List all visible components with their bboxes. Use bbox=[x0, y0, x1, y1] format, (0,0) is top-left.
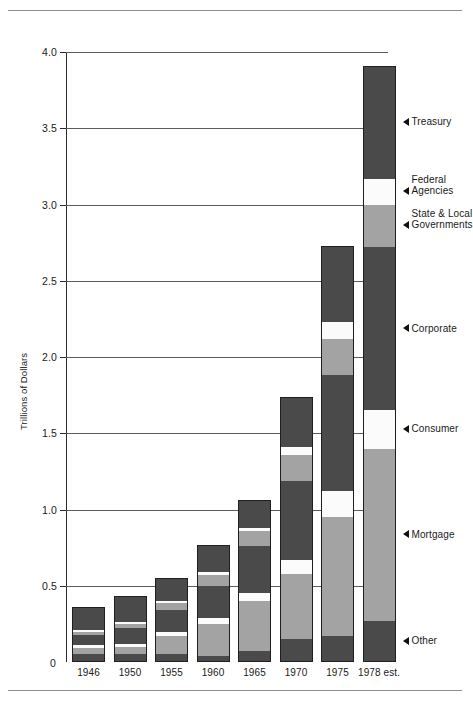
top-divider-rule bbox=[8, 10, 462, 11]
bar-segment-mortgage bbox=[280, 574, 313, 640]
bar-segment-treasury bbox=[280, 397, 313, 447]
callout-mortgage: Mortgage bbox=[403, 529, 455, 541]
x-axis-label-1970: 1970 bbox=[285, 667, 308, 678]
bar-segment-treasury bbox=[363, 66, 396, 179]
bar-group bbox=[66, 52, 388, 662]
bar-segment-consumer bbox=[321, 491, 354, 517]
bar-segment-corporate bbox=[114, 628, 147, 643]
callout-label: Treasury bbox=[412, 116, 452, 128]
bar-1960[interactable] bbox=[197, 545, 230, 662]
callout-label-line1: Corporate bbox=[412, 323, 457, 335]
y-tick-label-3.5: 3.5 bbox=[42, 122, 57, 134]
callout-corporate: Corporate bbox=[403, 323, 457, 335]
bar-1965[interactable] bbox=[238, 500, 271, 662]
x-axis-label-1955: 1955 bbox=[160, 667, 183, 678]
x-axis-label-1975: 1975 bbox=[326, 667, 349, 678]
y-tick-label-1.0: 1.0 bbox=[42, 504, 57, 516]
y-tick-label-3.0: 3.0 bbox=[42, 199, 57, 211]
bar-segment-treasury bbox=[238, 500, 271, 527]
bar-segment-other bbox=[155, 654, 188, 662]
bar-segment-consumer bbox=[280, 560, 313, 574]
x-axis-label-1978-est-: 1978 est. bbox=[358, 667, 400, 678]
bar-1978-est-[interactable] bbox=[363, 66, 396, 662]
callout-label-line1: Consumer bbox=[412, 423, 459, 435]
bottom-divider-rule bbox=[8, 690, 462, 691]
callout-caret-icon bbox=[403, 425, 409, 433]
x-axis-label-1965: 1965 bbox=[243, 667, 266, 678]
bar-1950[interactable] bbox=[114, 596, 147, 662]
bar-segment-statelocal bbox=[155, 603, 188, 611]
bar-segment-treasury bbox=[155, 578, 188, 601]
bar-segment-mortgage bbox=[363, 449, 396, 621]
bar-segment-corporate bbox=[238, 546, 271, 593]
y-tick-label-1.5: 1.5 bbox=[42, 427, 57, 439]
x-axis-label-1960: 1960 bbox=[202, 667, 225, 678]
y-tick-label-2.5: 2.5 bbox=[42, 275, 57, 287]
y-axis-title: Trillions of Dollars bbox=[18, 353, 29, 430]
bar-segment-other bbox=[363, 621, 396, 662]
callout-label-line1: Treasury bbox=[412, 116, 452, 128]
callout-label-line2: Governments bbox=[412, 219, 473, 231]
callout-label-line1: State & Local bbox=[412, 208, 473, 220]
callout-label: Mortgage bbox=[412, 529, 455, 541]
x-axis-label-1950: 1950 bbox=[119, 667, 142, 678]
bar-segment-statelocal bbox=[321, 339, 354, 376]
x-axis-labels: 19461950195519601965197019751978 est. bbox=[66, 667, 388, 687]
bar-segment-other bbox=[114, 654, 147, 662]
bar-segment-treasury bbox=[321, 246, 354, 322]
bar-segment-other bbox=[238, 651, 271, 662]
bar-segment-mortgage bbox=[238, 601, 271, 651]
bar-segment-consumer bbox=[238, 593, 271, 601]
callout-caret-icon bbox=[403, 187, 409, 195]
bar-segment-consumer bbox=[363, 410, 396, 448]
y-tick-label-2.0: 2.0 bbox=[42, 351, 57, 363]
plot-area: 0.51.01.52.02.53.03.54.0 194619501955196… bbox=[66, 52, 388, 662]
callout-other: Other bbox=[403, 635, 438, 647]
bar-segment-mortgage bbox=[197, 624, 230, 656]
callout-label: Corporate bbox=[412, 323, 457, 335]
callout-caret-icon bbox=[403, 221, 409, 229]
callout-label-line2: Agencies bbox=[412, 185, 454, 197]
callout-statelocal: State & LocalGovernments bbox=[403, 208, 473, 231]
y-tick-label-zero: 0 bbox=[50, 657, 56, 669]
y-tick-label-4.0: 4.0 bbox=[42, 46, 57, 58]
callout-label: Consumer bbox=[412, 423, 459, 435]
bar-segment-corporate bbox=[280, 481, 313, 560]
bar-segment-other bbox=[321, 636, 354, 662]
bar-segment-other bbox=[197, 656, 230, 662]
bar-segment-other bbox=[280, 639, 313, 662]
bar-1970[interactable] bbox=[280, 397, 313, 662]
callout-federal: FederalAgencies bbox=[403, 174, 454, 197]
bar-segment-mortgage bbox=[321, 517, 354, 636]
bar-segment-mortgage bbox=[114, 647, 147, 655]
callout-caret-icon bbox=[403, 324, 409, 332]
bar-segment-statelocal bbox=[363, 205, 396, 248]
bar-1946[interactable] bbox=[72, 607, 105, 662]
callout-label: Other bbox=[412, 635, 438, 647]
callout-caret-icon bbox=[403, 530, 409, 538]
x-axis-label-1946: 1946 bbox=[77, 667, 100, 678]
bar-segment-treasury bbox=[114, 596, 147, 622]
bar-1955[interactable] bbox=[155, 578, 188, 662]
bar-segment-statelocal bbox=[280, 455, 313, 481]
bar-segment-corporate bbox=[72, 635, 105, 646]
callout-label-line1: Other bbox=[412, 635, 438, 647]
bar-segment-treasury bbox=[197, 545, 230, 572]
callout-treasury: Treasury bbox=[403, 116, 452, 128]
bar-segment-statelocal bbox=[238, 531, 271, 546]
bar-segment-federal bbox=[321, 322, 354, 339]
callout-caret-icon bbox=[403, 637, 409, 645]
bar-segment-federal bbox=[280, 447, 313, 455]
bar-segment-corporate bbox=[321, 375, 354, 491]
callout-label-line1: Federal bbox=[412, 174, 454, 186]
bar-segment-corporate bbox=[363, 247, 396, 410]
callout-label-line1: Mortgage bbox=[412, 529, 455, 541]
bar-1975[interactable] bbox=[321, 246, 354, 662]
y-tick-label-0.5: 0.5 bbox=[42, 580, 57, 592]
bar-segment-mortgage bbox=[155, 636, 188, 654]
callout-label: State & LocalGovernments bbox=[412, 208, 473, 231]
callout-caret-icon bbox=[403, 118, 409, 126]
bar-segment-corporate bbox=[155, 610, 188, 631]
bar-segment-statelocal bbox=[197, 575, 230, 586]
bar-segment-other bbox=[72, 654, 105, 662]
